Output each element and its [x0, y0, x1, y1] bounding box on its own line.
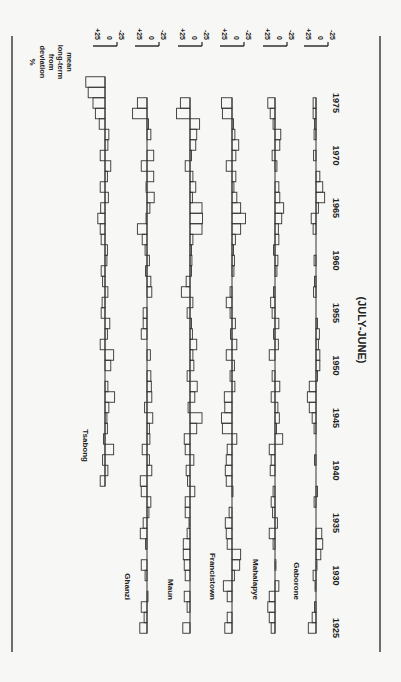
bar: [315, 455, 316, 466]
station-label: Mahalapye: [251, 559, 260, 600]
bar: [147, 192, 154, 203]
bar: [105, 161, 111, 172]
bar: [190, 266, 191, 277]
bar: [190, 224, 202, 235]
bar: [141, 329, 147, 340]
bar: [147, 150, 154, 161]
bar: [104, 434, 105, 445]
bar: [142, 234, 147, 245]
bar: [147, 203, 150, 214]
svg-text:mean: mean: [65, 52, 74, 72]
bar: [275, 129, 281, 140]
bar: [273, 119, 275, 130]
bar: [316, 203, 318, 214]
bar: [268, 98, 275, 109]
bar: [271, 497, 275, 508]
bar: [232, 570, 234, 581]
bar: [190, 392, 195, 403]
bar: [101, 266, 105, 277]
bar: [316, 171, 320, 182]
bar: [221, 413, 232, 424]
bar: [269, 591, 275, 602]
bar: [223, 581, 232, 592]
year-label: 1975: [331, 93, 341, 113]
bar: [314, 150, 316, 161]
bar: [229, 507, 232, 518]
bar: [232, 182, 234, 193]
bar: [190, 360, 194, 371]
bar: [141, 602, 147, 613]
bar: [225, 465, 232, 476]
bar: [316, 539, 323, 550]
bar: [308, 623, 316, 634]
bar: [147, 129, 151, 140]
bar: [185, 497, 190, 508]
bar: [145, 402, 147, 413]
bar: [147, 119, 148, 130]
bar: [226, 161, 232, 172]
year-label: 1945: [331, 408, 341, 428]
year-label: 1930: [331, 565, 341, 585]
bar: [227, 591, 232, 602]
bar: [105, 129, 109, 140]
year-label: 1935: [331, 513, 341, 533]
bar: [147, 423, 149, 434]
bar: [232, 171, 236, 182]
bar: [105, 171, 107, 182]
bar: [99, 119, 105, 130]
bar: [190, 350, 193, 361]
bar: [309, 381, 316, 392]
bar: [316, 318, 317, 329]
bar: [275, 339, 278, 350]
bar: [232, 266, 234, 277]
station-label: Tsabong: [81, 429, 90, 462]
bar: [313, 108, 316, 119]
bar: [102, 297, 105, 308]
bar: [273, 539, 275, 550]
bar: [190, 213, 202, 224]
bar: [190, 192, 192, 203]
bar: [274, 245, 275, 256]
bar: [227, 444, 232, 455]
bar: [226, 455, 232, 466]
bar: [232, 140, 239, 151]
bar: [190, 255, 192, 266]
year-label: 1965: [331, 198, 341, 218]
bar: [105, 360, 111, 371]
svg-text:-25: -25: [118, 30, 125, 40]
station-strip-mahalapye: [268, 98, 284, 634]
bar: [271, 392, 275, 403]
bar: [268, 602, 275, 613]
bar: [314, 497, 316, 508]
svg-text:deviation: deviation: [38, 46, 47, 79]
bar: [93, 98, 105, 109]
bar: [232, 224, 241, 235]
bar: [184, 434, 190, 445]
bar: [145, 570, 147, 581]
bar: [316, 549, 321, 560]
bar: [230, 371, 232, 382]
svg-text:-25: -25: [329, 30, 336, 40]
bar: [143, 308, 147, 319]
bar: [147, 507, 149, 518]
bar: [232, 255, 234, 266]
bar: [105, 245, 107, 256]
bar: [188, 402, 190, 413]
bar: [316, 182, 323, 193]
year-axis-labels: 1925193019351940194519501955196019651970…: [331, 93, 341, 638]
bar: [190, 413, 202, 424]
bar: [190, 234, 193, 245]
year-label: 1970: [331, 145, 341, 165]
bar: [190, 171, 193, 182]
bar: [141, 486, 147, 497]
bar: [275, 413, 279, 424]
bar: [314, 255, 316, 266]
bar: [275, 318, 279, 329]
bar: [186, 276, 190, 287]
bar: [270, 108, 275, 119]
bar: [316, 350, 320, 361]
station-label: Ghanzi: [123, 573, 132, 600]
svg-text:+25: +25: [179, 28, 186, 40]
tick-group: +250-25: [178, 28, 210, 46]
bar: [186, 465, 190, 476]
